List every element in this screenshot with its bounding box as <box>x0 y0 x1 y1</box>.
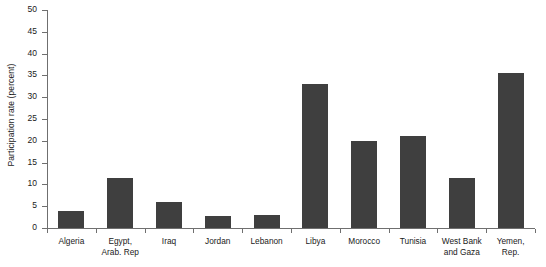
x-axis-tick-mark <box>535 229 536 233</box>
bar <box>351 141 377 228</box>
x-axis-tick-mark <box>486 229 487 233</box>
x-axis-category-label: West Bankand Gaza <box>437 236 486 258</box>
x-axis-tick-mark <box>193 229 194 233</box>
x-axis-category-line: Jordan <box>193 236 242 247</box>
y-axis-tick-label: 10 <box>28 178 37 188</box>
chart-figure: Participation rate (percent) 50454035302… <box>0 0 546 267</box>
x-axis-category-label: Egypt,Arab. Rep <box>96 236 145 258</box>
x-axis-category-line: Tunisia <box>389 236 438 247</box>
x-axis-category-label: Tunisia <box>389 236 438 247</box>
y-axis-tick-label: 20 <box>28 135 37 145</box>
y-axis-tick-label: 30 <box>28 91 37 101</box>
x-axis-tick-mark <box>96 229 97 233</box>
x-axis-category-label: Iraq <box>145 236 194 247</box>
x-axis-category-line: Libya <box>291 236 340 247</box>
bar <box>449 178 475 228</box>
x-axis-tick-mark <box>291 229 292 233</box>
x-axis-category-line: Morocco <box>340 236 389 247</box>
bar <box>400 136 426 228</box>
y-axis-tick-label: 5 <box>32 200 37 210</box>
x-axis-category-line: Rep. <box>486 247 535 258</box>
x-axis-category-label: Morocco <box>340 236 389 247</box>
bar <box>156 202 182 228</box>
x-axis-category-label: Lebanon <box>242 236 291 247</box>
x-axis-category-line: Lebanon <box>242 236 291 247</box>
x-axis-category-line: Arab. Rep <box>96 247 145 258</box>
x-axis-tick-mark <box>340 229 341 233</box>
y-axis-tick-label: 40 <box>28 48 37 58</box>
y-axis-tick-label: 15 <box>28 157 37 167</box>
bar <box>254 215 280 228</box>
y-axis-title: Participation rate (percent) <box>0 0 22 230</box>
y-axis-tick-label: 25 <box>28 113 37 123</box>
x-axis-category-line: and Gaza <box>437 247 486 258</box>
x-axis-category-line: Yemen, <box>486 236 535 247</box>
x-axis-category-line: Egypt, <box>96 236 145 247</box>
y-axis-tick-label: 50 <box>28 4 37 14</box>
x-axis-tick-mark <box>47 229 48 233</box>
x-axis-category-label: Yemen,Rep. <box>486 236 535 258</box>
x-axis-tick-mark <box>389 229 390 233</box>
bar <box>205 216 231 228</box>
x-axis-category-label: Algeria <box>47 236 96 247</box>
bar <box>498 73 524 228</box>
x-axis-tick-mark <box>437 229 438 233</box>
x-axis-category-line: West Bank <box>437 236 486 247</box>
x-axis-tick-mark <box>242 229 243 233</box>
y-axis-tick-label: 0 <box>32 222 37 232</box>
y-axis-tick-label: 45 <box>28 26 37 36</box>
x-axis-category-label: Libya <box>291 236 340 247</box>
x-axis-category-line: Iraq <box>145 236 194 247</box>
x-axis-category-label: Jordan <box>193 236 242 247</box>
y-axis-title-text: Participation rate (percent) <box>6 64 16 167</box>
bar <box>302 84 328 228</box>
y-axis-tick-label: 35 <box>28 69 37 79</box>
bar <box>107 178 133 228</box>
bar <box>58 211 84 228</box>
x-axis-tick-mark <box>145 229 146 233</box>
plot-area <box>47 10 535 228</box>
x-axis-category-line: Algeria <box>47 236 96 247</box>
